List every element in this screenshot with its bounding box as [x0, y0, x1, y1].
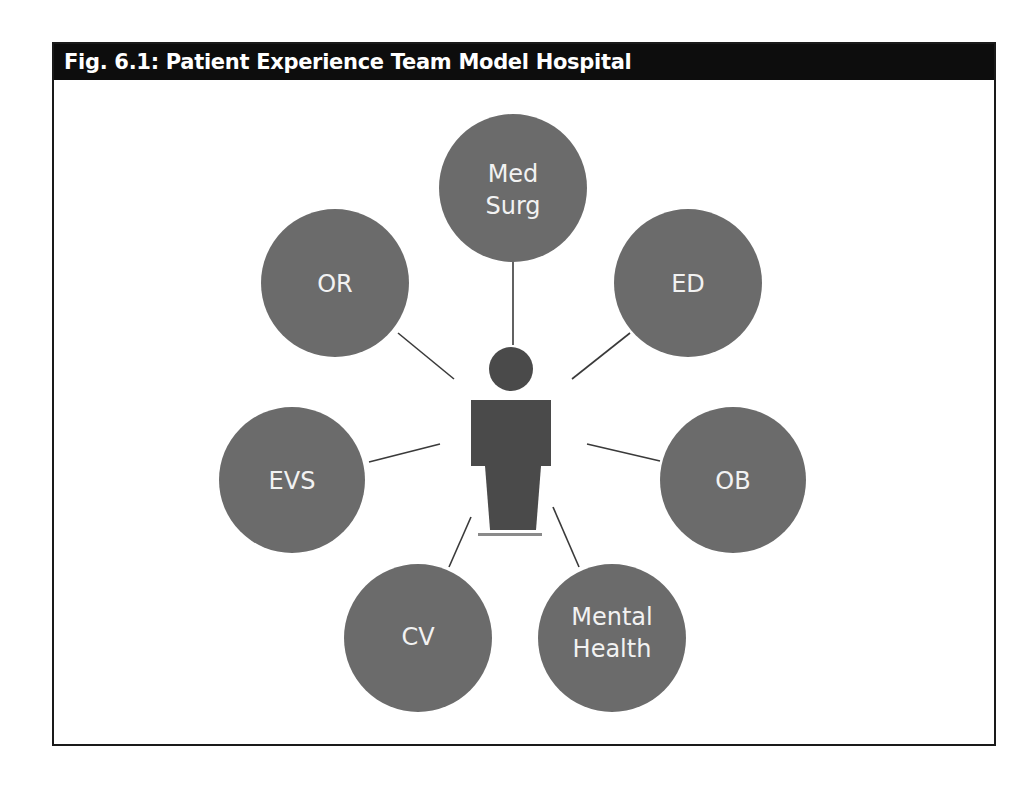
person-head [489, 347, 533, 391]
node-label: Health [573, 635, 652, 663]
node-mental-health: Mental Health [538, 564, 686, 712]
node-label: Med [488, 160, 539, 188]
connector-ob [587, 444, 660, 461]
person-legs [485, 466, 541, 530]
node-label: Surg [485, 192, 540, 220]
connector-evs [369, 444, 440, 462]
person-icon [471, 347, 551, 536]
connector-mental-health [553, 507, 579, 567]
person-shadow [478, 533, 542, 536]
node-ed: ED [614, 209, 762, 357]
node-evs: EVS [219, 407, 365, 553]
node-label: EVS [269, 467, 316, 495]
node-label: Mental [571, 603, 652, 631]
hub-spoke-diagram: Med Surg ED OB Mental Health CV EVS OR [0, 0, 1023, 785]
node-label: OR [317, 270, 353, 298]
node-label: ED [671, 270, 705, 298]
connector-ed [572, 333, 630, 379]
node-ob: OB [660, 407, 806, 553]
node-cv: CV [344, 564, 492, 712]
person-torso [471, 400, 551, 466]
connector-or [398, 333, 454, 379]
node-label: CV [401, 623, 435, 651]
node-label: OB [715, 467, 750, 495]
node-or: OR [261, 209, 409, 357]
node-med-surg: Med Surg [439, 114, 587, 262]
connector-cv [449, 517, 471, 567]
